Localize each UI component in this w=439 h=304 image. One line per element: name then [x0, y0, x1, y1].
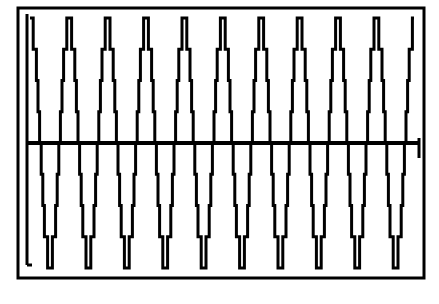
waveform-plot [0, 0, 439, 304]
